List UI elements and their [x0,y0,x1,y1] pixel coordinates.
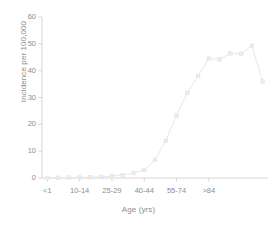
data-point-marker [175,114,178,117]
data-point-marker [250,44,253,47]
incidence-by-age-chart: Incidence per 100,000 Age (yrs) 01020304… [0,0,277,230]
data-point-marker [143,168,146,171]
data-point-marker [78,176,81,179]
data-point-marker [56,176,59,179]
data-point-marker [110,174,113,177]
data-point-marker [218,58,221,61]
data-point-marker [153,158,156,161]
data-point-marker [229,52,232,55]
data-point-marker [132,171,135,174]
data-point-marker [207,57,210,60]
data-point-marker [261,80,264,83]
data-point-marker [121,173,124,176]
data-point-marker [46,176,49,179]
data-point-marker [196,74,199,77]
data-point-marker [89,176,92,179]
data-point-marker [99,175,102,178]
data-point-marker [67,176,70,179]
plot-area [0,0,277,230]
data-point-marker [164,139,167,142]
data-point-marker [239,52,242,55]
data-point-marker [186,91,189,94]
